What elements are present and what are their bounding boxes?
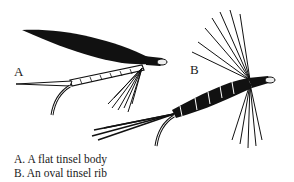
- caption-line-b: B. An oval tinsel rib: [14, 166, 107, 180]
- figure-caption: A. A flat tinsel body B. An oval tinsel …: [14, 152, 107, 180]
- fly-a: [16, 30, 167, 115]
- caption-line-a: A. A flat tinsel body: [14, 152, 107, 166]
- label-b: B: [190, 62, 199, 78]
- label-a: A: [14, 64, 23, 80]
- fly-b: [92, 10, 275, 148]
